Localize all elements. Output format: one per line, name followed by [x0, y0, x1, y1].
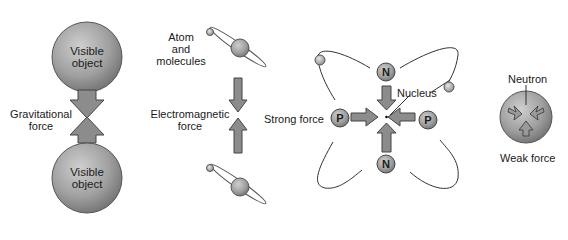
top-object-line2: object: [62, 57, 112, 69]
weak-force-label: Weak force: [500, 152, 555, 164]
em-arrow-down: [229, 78, 247, 112]
bottom-object-label: Visible object: [62, 166, 112, 190]
proton-right: P: [421, 114, 435, 126]
atom-top: [207, 24, 269, 70]
neutron-label: Neutron: [508, 73, 547, 85]
atom-line2: and: [150, 43, 212, 55]
bottom-object-line2: object: [62, 178, 112, 190]
neutron-top: N: [379, 66, 393, 78]
gravitational-force-label: Gravitational force: [2, 108, 80, 132]
atom-line1: Atom: [150, 31, 212, 43]
electromagnetic-force-label: Electromagnetic force: [148, 108, 232, 132]
nucleus-label: Nucleus: [397, 87, 437, 99]
atom-line3: molecules: [150, 55, 212, 67]
gravitational-line2: force: [2, 120, 80, 132]
em-line1: Electromagnetic: [148, 108, 232, 120]
neutron-bottom: N: [379, 158, 393, 170]
bottom-object-line1: Visible: [62, 166, 112, 178]
weak-panel: [500, 85, 552, 143]
top-object-label: Visible object: [62, 45, 112, 69]
top-object-line1: Visible: [62, 45, 112, 57]
atom-bottom: [207, 161, 269, 207]
em-line2: force: [148, 120, 232, 132]
proton-left: P: [333, 112, 347, 124]
atom-molecules-label: Atom and molecules: [150, 31, 212, 67]
strong-force-label: Strong force: [264, 113, 324, 125]
gravitational-line1: Gravitational: [2, 108, 80, 120]
